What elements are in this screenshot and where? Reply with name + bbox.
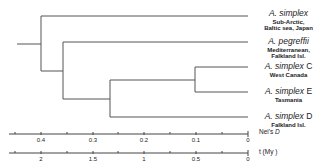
location-text: Tasmania (251, 97, 326, 104)
axis-time (9, 150, 248, 156)
leaf-label-simplex-c: A. simplex C West Canada (251, 62, 326, 78)
axis-title-nei-d: Nei's D (259, 128, 280, 135)
leaf-label-simplex-e: A. simplex E Tasmania (251, 87, 326, 103)
leaf-label-simplex-subarctic: A. simplex Sub-Arctic,Baltic sea, Japan (251, 9, 326, 32)
species-name: A. simplex (251, 9, 326, 18)
species-name: A. simplex E (251, 87, 326, 96)
location-text: Mediterranean,Falkland Isl. (251, 47, 326, 61)
location-text: West Canada (251, 72, 326, 79)
tick-label: 0.1 (192, 137, 200, 143)
axis-title-time: t (My ) (259, 148, 277, 155)
tick-label: 1 (142, 156, 145, 162)
tick-label: 0.3 (89, 137, 97, 143)
location-text: Sub-Arctic,Baltic sea, Japan (251, 19, 326, 33)
tick-label: 1.5 (89, 156, 97, 162)
species-name: A. pegreffii (251, 37, 326, 46)
leaf-label-simplex-d: A. simplex D Falkland Isl. (251, 112, 326, 128)
tick-label: 0.5 (192, 156, 200, 162)
tick-label: 0 (246, 156, 249, 162)
species-name: A. simplex C (251, 62, 326, 71)
tick-label: 0.2 (140, 137, 148, 143)
leaf-label-pegreffii: A. pegreffii Mediterranean,Falkland Isl. (251, 37, 326, 60)
tick-label: 2 (39, 156, 42, 162)
tick-label: 0 (246, 137, 249, 143)
species-name: A. simplex D (251, 112, 326, 121)
tick-label: 0.4 (37, 137, 45, 143)
